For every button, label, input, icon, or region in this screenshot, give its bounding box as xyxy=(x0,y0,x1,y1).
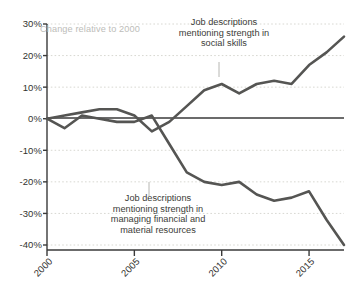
y-axis-tick-label: -10% xyxy=(19,145,42,156)
x-axis-tick-label: 2015 xyxy=(293,256,316,279)
x-axis-labels: 2000200520102015 xyxy=(31,256,316,279)
annotation-social-skills: Job descriptions mentioning strength in … xyxy=(158,17,290,49)
x-axis-tick-label: 2010 xyxy=(206,256,229,279)
y-axis-tick-label: 20% xyxy=(23,50,43,61)
annotation-financial-resources: Job descriptions mentioning strength in … xyxy=(84,193,232,235)
y-axis-tick-label: -40% xyxy=(19,239,42,250)
x-axis-tick-label: 2000 xyxy=(31,256,54,279)
line-chart: 30%20%10%0%-10%-20%-30%-40% 200020052010… xyxy=(0,0,348,293)
y-axis-tick-label: -20% xyxy=(19,176,42,187)
x-axis-tick-label: 2005 xyxy=(119,256,142,279)
y-axis-tick-label: 10% xyxy=(23,82,43,93)
y-axis-tick-label: -30% xyxy=(19,208,42,219)
axis-note-label: Change relative to 2000 xyxy=(40,24,140,34)
y-axis-labels: 30%20%10%0%-10%-20%-30%-40% xyxy=(19,18,42,250)
y-axis-tick-label: 0% xyxy=(28,113,42,124)
